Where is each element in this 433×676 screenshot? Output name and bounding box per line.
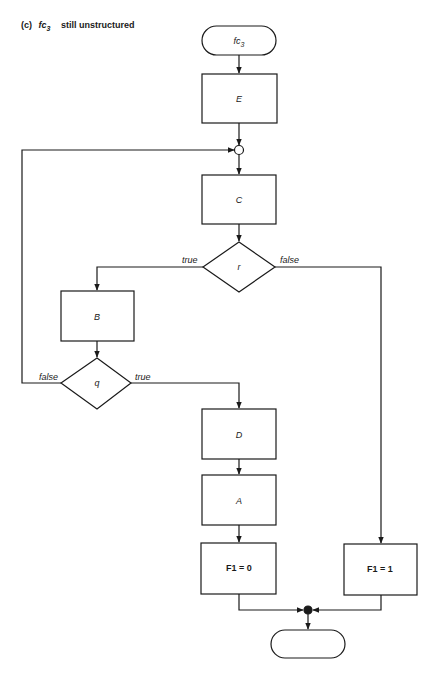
process-c-label: C [236,195,243,205]
branch-r-true [97,267,203,290]
decision-r-true-label: true [182,255,198,265]
branch-q-true [131,383,239,408]
decision-q-true-label: true [135,372,151,382]
process-d-label: D [236,430,243,440]
process-b-label: B [94,312,100,322]
assign-f1-0-label: F1 = 0 [226,563,252,573]
flowchart-canvas: fc3 E C r true false B q false true D A … [0,0,433,676]
end-terminal [271,630,345,658]
merge-line-right [313,595,381,610]
decision-r-false-label: false [280,255,299,265]
merge-dot [304,606,312,614]
merge-line-left [239,594,303,610]
decision-q-false-label: false [39,372,58,382]
decision-q-label: q [94,378,99,388]
branch-r-false [275,267,381,543]
process-e-label: E [236,94,243,104]
process-a-label: A [235,496,242,506]
connector-circle [235,146,244,155]
assign-f1-1-label: F1 = 1 [367,564,393,574]
